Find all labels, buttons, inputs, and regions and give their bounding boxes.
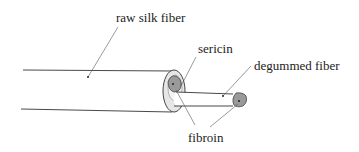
leader-degummed-dot xyxy=(222,95,224,97)
label-sericin: sericin xyxy=(198,41,233,56)
label-fibroin: fibroin xyxy=(188,130,224,145)
fibroin-dot-degummed xyxy=(238,100,240,102)
raw-fiber-top-edge xyxy=(23,70,172,71)
leader-raw-fiber xyxy=(88,27,118,77)
fibroin-core-degummed xyxy=(233,93,247,107)
degummed-fiber xyxy=(174,92,247,107)
raw-fiber-bottom-edge xyxy=(21,109,172,112)
fibroin-core-raw xyxy=(168,76,181,92)
fibroin-dot xyxy=(172,83,174,85)
leader-raw-fiber-dot xyxy=(87,76,89,78)
label-degummed-fiber: degummed fiber xyxy=(254,58,340,73)
silk-fiber-diagram: raw silk fiber sericin degummed fiber fi… xyxy=(0,0,359,152)
leader-degummed xyxy=(223,66,251,96)
label-raw-silk-fiber: raw silk fiber xyxy=(116,10,186,25)
leader-fibroin-degummed xyxy=(210,104,238,127)
leader-sericin xyxy=(181,57,196,86)
raw-silk-fiber xyxy=(21,70,185,112)
